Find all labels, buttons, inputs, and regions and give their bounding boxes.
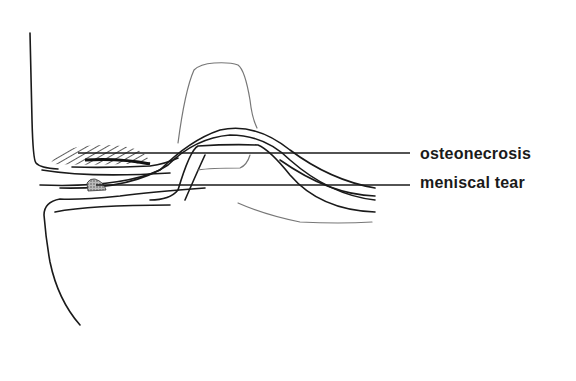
label-meniscal-tear: meniscal tear (420, 174, 525, 192)
tibia-outline (44, 188, 205, 325)
label-osteonecrosis: osteonecrosis (420, 145, 531, 163)
femur-outline (30, 33, 58, 169)
